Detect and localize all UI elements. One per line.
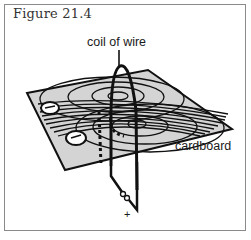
- cardboard-label: cardboard: [175, 139, 231, 153]
- terminal-plus-label: +: [124, 208, 130, 220]
- terminal-negative: [121, 192, 126, 197]
- terminal-positive: [125, 196, 130, 201]
- compass-lower: [66, 131, 86, 145]
- coil-label: coil of wire: [87, 35, 146, 49]
- compass-upper: [41, 102, 59, 114]
